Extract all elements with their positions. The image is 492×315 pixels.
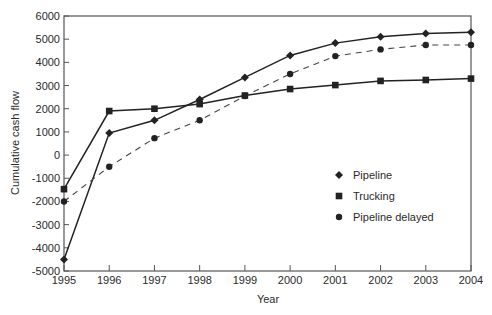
circle-marker-icon xyxy=(377,46,383,52)
x-tick-label: 1996 xyxy=(97,274,121,286)
x-axis: 1995199619971998199920002001200220032004 xyxy=(52,265,483,286)
circle-marker-icon xyxy=(106,163,112,169)
circle-marker-icon xyxy=(423,42,429,48)
diamond-marker-icon xyxy=(60,255,68,263)
series-line xyxy=(64,32,471,259)
legend-label: Pipeline xyxy=(353,169,392,181)
circle-marker-icon xyxy=(336,214,342,220)
y-tick-label: -1000 xyxy=(32,172,60,184)
diamond-marker-icon xyxy=(335,171,343,179)
y-tick-label: 5000 xyxy=(36,33,60,45)
square-marker-icon xyxy=(336,193,343,200)
diamond-marker-icon xyxy=(150,116,158,124)
x-axis-title: Year xyxy=(257,293,280,305)
y-axis-title: Cumulative cash flow xyxy=(9,91,21,195)
x-tick-label: 1998 xyxy=(187,274,211,286)
y-tick-label: 6000 xyxy=(36,10,60,22)
diamond-marker-icon xyxy=(331,39,339,47)
diamond-marker-icon xyxy=(241,73,249,81)
y-tick-label: -4000 xyxy=(32,242,60,254)
y-tick-label: 1000 xyxy=(36,126,60,138)
series-line xyxy=(64,79,471,190)
circle-marker-icon xyxy=(242,93,248,99)
square-marker-icon xyxy=(468,75,475,82)
square-marker-icon xyxy=(151,105,158,112)
circle-marker-icon xyxy=(61,198,67,204)
plot-frame xyxy=(64,16,471,271)
circle-marker-icon xyxy=(196,117,202,123)
cash-flow-chart: 6000500040003000200010000-1000-2000-3000… xyxy=(0,0,492,315)
legend-label: Pipeline delayed xyxy=(353,211,434,223)
square-marker-icon xyxy=(106,108,113,115)
square-marker-icon xyxy=(61,186,68,193)
x-tick-label: 2000 xyxy=(278,274,302,286)
x-tick-label: 2004 xyxy=(459,274,483,286)
legend: PipelineTruckingPipeline delayed xyxy=(335,169,434,223)
diamond-marker-icon xyxy=(467,28,475,36)
x-tick-label: 2003 xyxy=(414,274,438,286)
y-tick-label: -2000 xyxy=(32,195,60,207)
square-marker-icon xyxy=(196,101,203,108)
diamond-marker-icon xyxy=(377,33,385,41)
series-pipeline xyxy=(60,28,475,263)
diamond-marker-icon xyxy=(105,129,113,137)
legend-item-pipeline-delayed: Pipeline delayed xyxy=(336,211,434,223)
y-tick-label: 3000 xyxy=(36,80,60,92)
legend-label: Trucking xyxy=(353,190,395,202)
x-tick-label: 2001 xyxy=(323,274,347,286)
series-trucking xyxy=(61,75,475,192)
x-tick-label: 1997 xyxy=(142,274,166,286)
diamond-marker-icon xyxy=(286,51,294,59)
y-tick-label: 0 xyxy=(54,149,60,161)
circle-marker-icon xyxy=(287,71,293,77)
circle-marker-icon xyxy=(332,53,338,59)
y-tick-label: 4000 xyxy=(36,56,60,68)
square-marker-icon xyxy=(332,82,339,89)
legend-item-trucking: Trucking xyxy=(336,190,395,202)
x-tick-label: 2002 xyxy=(368,274,392,286)
x-tick-label: 1995 xyxy=(52,274,76,286)
plot-border xyxy=(64,16,471,271)
series-group xyxy=(60,28,475,263)
square-marker-icon xyxy=(422,77,429,84)
series-line xyxy=(64,45,471,201)
square-marker-icon xyxy=(377,78,384,85)
circle-marker-icon xyxy=(468,42,474,48)
y-tick-label: -3000 xyxy=(32,219,60,231)
y-tick-label: 2000 xyxy=(36,103,60,115)
circle-marker-icon xyxy=(151,135,157,141)
square-marker-icon xyxy=(287,86,294,93)
x-tick-label: 1999 xyxy=(233,274,257,286)
diamond-marker-icon xyxy=(422,29,430,37)
legend-item-pipeline: Pipeline xyxy=(335,169,392,181)
